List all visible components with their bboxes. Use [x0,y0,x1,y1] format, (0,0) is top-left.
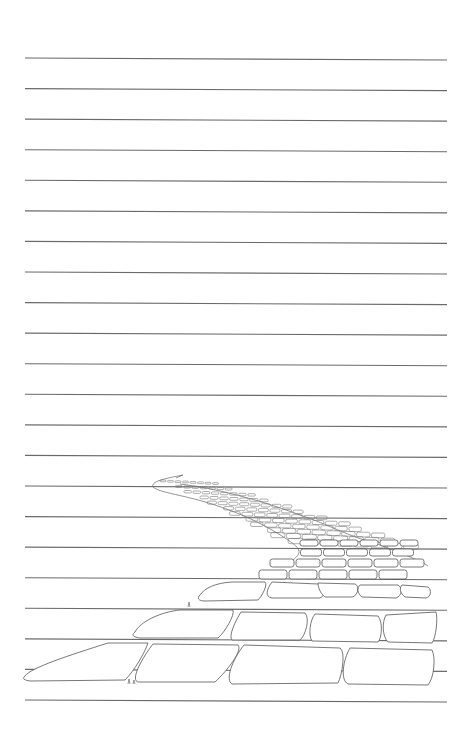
brick-road-illustration [0,0,465,731]
lined-paper-page [0,0,465,731]
